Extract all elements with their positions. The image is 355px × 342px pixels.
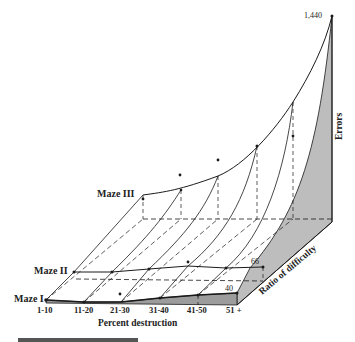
svg-text:31-40: 31-40	[149, 305, 169, 315]
svg-text:51 +: 51 +	[226, 305, 242, 315]
svg-text:11-20: 11-20	[74, 305, 93, 315]
maze2-label: Maze II	[34, 265, 68, 276]
svg-text:21-30: 21-30	[110, 305, 130, 315]
maze3-label: Maze III	[97, 188, 135, 199]
svg-text:1-10: 1-10	[37, 305, 53, 315]
maze2-line	[74, 266, 263, 272]
max-value-label: 1,440	[304, 11, 322, 20]
svg-text:41-50: 41-50	[187, 305, 207, 315]
caption-fragment	[18, 338, 138, 342]
value-66-label: 66	[251, 257, 259, 266]
x-axis-label: Percent destruction	[98, 318, 178, 328]
maze3-curve	[143, 16, 332, 195]
maze-errors-3d-chart: Maze III Maze II Maze I 1-10 11-20 21-30…	[0, 0, 355, 342]
value-40-label: 40	[225, 284, 233, 293]
y-axis-label: Errors	[334, 112, 344, 140]
x-tick-labels: 1-10 11-20 21-30 31-40 41-50 51 +	[37, 305, 242, 315]
maze1-label: Maze I	[14, 293, 44, 304]
